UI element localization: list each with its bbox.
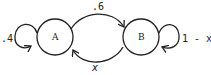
edge-a-b — [71, 14, 124, 29]
edge-b-a — [73, 47, 123, 62]
edge-b-b — [159, 25, 179, 48]
edge-a-a-label: .4 — [1, 34, 13, 44]
markov-diagram: A B .4 .6 x 1 - x — [0, 0, 211, 75]
diagram-graphics — [0, 0, 211, 75]
edge-b-b-label: 1 - x — [182, 34, 211, 44]
node-a-label: A — [52, 33, 59, 42]
edge-a-a — [15, 24, 37, 47]
node-b-label: B — [138, 33, 145, 42]
edge-b-a-label: x — [92, 63, 98, 73]
edge-a-b-label: .6 — [92, 2, 104, 12]
